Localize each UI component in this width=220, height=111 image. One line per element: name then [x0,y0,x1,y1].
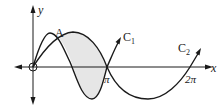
curve-c1-label-subscript: 1 [131,37,135,46]
shaded-region [59,32,107,99]
x-axis-left-arrow-icon [14,65,22,70]
curve-c2-label-subscript: 2 [186,48,190,57]
curve-c1-arrow-icon [116,37,122,45]
curve-c1-label-name: C [123,30,131,44]
y-axis-down-arrow-icon [31,97,36,105]
pi-tick-label: π [104,73,110,85]
y-axis-up-arrow-icon [31,5,36,13]
curve-c1-label: C1 [123,30,135,46]
graph-diagram: y x A π 2π C1 C2 [0,0,220,111]
two-pi-tick-label: 2π [185,73,197,85]
curve-c2-label-name: C [178,41,186,55]
y-axis-label: y [37,3,44,17]
curve-c2-arrow-icon [196,48,202,56]
point-a-label: A [55,26,64,40]
curve-c2-label: C2 [178,41,190,57]
x-axis-label: x [210,61,217,75]
